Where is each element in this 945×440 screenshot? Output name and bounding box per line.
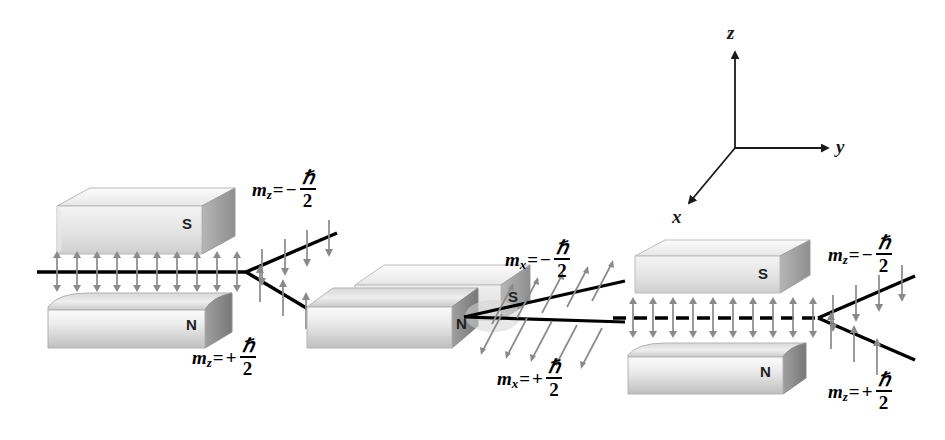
label-stage2-upper-sub: x [520, 258, 527, 271]
axis-label-z: z [727, 22, 734, 44]
label-stage2-lower-sign: + [531, 369, 544, 388]
label-stage3-upper-sign: − [861, 245, 874, 264]
label-stage1-upper-sign: − [285, 180, 298, 199]
magnet-3-lower-N [628, 343, 806, 394]
beam-3-upper-arrows [829, 265, 906, 332]
pole-label-s3: S [758, 265, 768, 282]
label-stage3-upper-eq: = [848, 245, 861, 264]
label-stage2-lower-sub: x [512, 377, 519, 390]
label-stage3-lower-sign: + [861, 382, 874, 401]
magnet-1-upper-S [57, 188, 235, 254]
label-stage1-lower-fraction: ℏ 2 [240, 336, 256, 378]
label-stage2-lower-numerator: ℏ [546, 357, 562, 377]
label-stage3-upper-denominator: 2 [879, 255, 889, 275]
label-stage3-lower-m: m [828, 382, 843, 401]
label-stage2-lower-denominator: 2 [549, 379, 559, 399]
label-stage1-lower-eq: = [212, 348, 225, 367]
axis-label-y: y [836, 136, 844, 158]
label-stage2-upper-denominator: 2 [557, 260, 567, 280]
label-stage3-upper-sub: z [843, 253, 848, 266]
label-stage2-upper-eq: = [526, 250, 539, 269]
label-stage3-upper: mz=− ℏ 2 [828, 233, 892, 275]
pole-label-n1: N [186, 316, 197, 333]
label-stage3-lower-sub: z [843, 390, 848, 403]
axis-label-x: x [672, 206, 682, 228]
label-stage2-lower-eq: = [518, 369, 531, 388]
label-stage1-lower-numerator: ℏ [240, 336, 256, 356]
label-stage1-lower-sub: z [207, 356, 212, 369]
magnet-pair-1 [48, 188, 235, 348]
magnet-pair-2 [307, 265, 530, 348]
label-stage1-lower: mz=+ ℏ 2 [192, 336, 256, 378]
pole-label-s2: S [508, 288, 518, 305]
diagram-svg [0, 0, 945, 440]
label-stage3-lower: mz=+ ℏ 2 [828, 370, 892, 412]
label-stage1-upper-m: m [252, 180, 267, 199]
label-stage3-upper-numerator: ℏ [876, 233, 892, 253]
label-stage1-upper-numerator: ℏ [300, 168, 316, 188]
label-stage3-upper-m: m [828, 245, 843, 264]
beam-1-lower-arrows [256, 265, 310, 329]
beam-1-upper-arrows [258, 220, 333, 286]
axis-x-line [689, 148, 735, 203]
label-stage3-upper-fraction: ℏ 2 [876, 233, 892, 275]
label-stage1-upper-denominator: 2 [303, 190, 313, 210]
pole-label-n2: N [456, 315, 467, 332]
label-stage1-upper-eq: = [272, 180, 285, 199]
label-stage1-lower-m: m [192, 348, 207, 367]
label-stage1-lower-denominator: 2 [243, 358, 253, 378]
label-stage1-upper-sub: z [267, 188, 272, 201]
label-stage1-lower-sign: + [225, 348, 238, 367]
magnet-3-upper-S [635, 240, 810, 293]
label-stage2-lower-fraction: ℏ 2 [546, 357, 562, 399]
figure-canvas: z y x S N S N S N mz=− ℏ 2 mz=+ ℏ 2 mx [0, 0, 945, 440]
label-stage2-upper-fraction: ℏ 2 [554, 238, 570, 280]
label-stage2-upper: mx=− ℏ 2 [505, 238, 570, 280]
label-stage2-lower-m: m [497, 369, 512, 388]
label-stage3-lower-denominator: 2 [879, 392, 889, 412]
label-stage2-upper-numerator: ℏ [554, 238, 570, 258]
label-stage3-lower-eq: = [848, 382, 861, 401]
label-stage2-upper-sign: − [539, 250, 552, 269]
label-stage1-upper: mz=− ℏ 2 [252, 168, 316, 210]
label-stage3-lower-numerator: ℏ [876, 370, 892, 390]
label-stage1-upper-fraction: ℏ 2 [300, 168, 316, 210]
label-stage2-upper-m: m [505, 250, 520, 269]
label-stage2-lower: mx=+ ℏ 2 [497, 357, 562, 399]
pole-label-n3: N [760, 363, 771, 380]
coordinate-axes [689, 52, 828, 203]
pole-label-s1: S [182, 215, 192, 232]
label-stage3-lower-fraction: ℏ 2 [876, 370, 892, 412]
